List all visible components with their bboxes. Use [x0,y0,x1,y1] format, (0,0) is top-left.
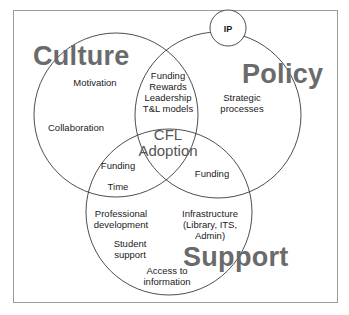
library-its-line: (Library, ITS, [182,219,238,230]
leadership-label: Leadership [143,92,193,103]
access-line: Access to [144,265,191,276]
infrastructure-label: Infrastructure (Library, ITS, Admin) [182,208,238,241]
motivation-label: Motivation [73,77,116,88]
professional-line: Professional [94,208,148,219]
cfl-line: CFL [138,127,197,143]
professional-development-label: Professional development [94,208,148,230]
student-line: Student [114,238,147,249]
cfl-adoption-label: CFL Adoption [138,127,197,159]
admin-line: Admin) [182,230,238,241]
processes-line: processes [220,103,263,114]
culture-policy-region: Funding Rewards Leadership T&L models [143,70,193,114]
support-label: Support [183,243,289,271]
adoption-line: Adoption [138,143,197,159]
development-line: development [94,219,148,230]
information-line: information [144,276,191,287]
time-label: Time [108,181,129,192]
collaboration-label: Collaboration [48,122,104,133]
ip-label: IP [224,24,233,34]
policy-label: Policy [242,60,323,88]
support-line: support [114,249,147,260]
strategic-line: Strategic [220,92,263,103]
culture-label: Culture [33,42,130,70]
infrastructure-line: Infrastructure [182,208,238,219]
access-to-information-label: Access to information [144,265,191,287]
strategic-processes-label: Strategic processes [220,92,263,114]
student-support-label: Student support [114,238,147,260]
culture-support-funding-label: Funding [101,160,135,171]
policy-support-funding-label: Funding [195,168,229,179]
funding-label: Funding [143,70,193,81]
rewards-label: Rewards [143,81,193,92]
tl-models-label: T&L models [143,103,193,114]
